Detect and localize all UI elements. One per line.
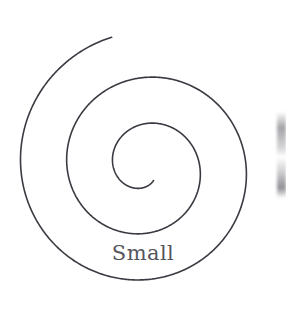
spiral-label: Small	[0, 241, 286, 265]
spiral-canvas	[0, 0, 286, 328]
spiral-figure: Small	[0, 0, 286, 328]
